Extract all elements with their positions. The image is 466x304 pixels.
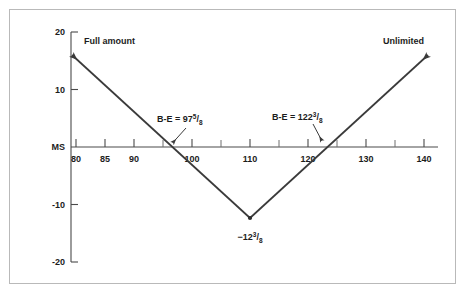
y-tick-label-neg20: -20: [52, 257, 65, 267]
x-axis: [71, 139, 438, 147]
figure-container: 20 10 MS -10 -20 80: [0, 0, 466, 304]
svg-text:B-E = 1223/8: B-E = 1223/8: [272, 111, 323, 124]
chart-plot-frame: 20 10 MS -10 -20 80: [9, 9, 456, 284]
break-even-left-leader: [173, 128, 187, 143]
break-even-right-label: B-E = 1223/8: [272, 111, 323, 124]
y-tick-label-10: 10: [55, 85, 65, 95]
payoff-right-leg: [250, 55, 428, 218]
vertex-prefix: −12: [237, 232, 252, 242]
vertex-value-label: −123/8: [237, 231, 262, 244]
payoff-left-leg: [72, 55, 250, 218]
break-even-right-leader: [313, 124, 322, 141]
y-tick-label-20: 20: [55, 27, 65, 37]
x-tick-label-80: 80: [71, 154, 81, 164]
x-tick-label-130: 130: [358, 154, 373, 164]
payoff-chart: 20 10 MS -10 -20 80: [10, 10, 455, 283]
be-left-prefix: B-E = 97: [157, 114, 193, 124]
be-left-denominator: 8: [199, 119, 203, 126]
annotation-full-amount: Full amount: [84, 36, 135, 46]
x-tick-label-85: 85: [100, 154, 110, 164]
vertex-marker: [248, 216, 252, 220]
payoff-series: [72, 55, 428, 220]
be-right-denominator: 8: [319, 117, 323, 124]
x-tick-label-90: 90: [129, 154, 139, 164]
be-right-prefix: B-E = 122: [272, 112, 313, 122]
break-even-left-label: B-E = 975/8: [157, 113, 203, 126]
figure-caption-strip: [10, 291, 100, 301]
svg-text:B-E = 975/8: B-E = 975/8: [157, 113, 203, 126]
y-tick-label-neg10: -10: [52, 200, 65, 210]
annotation-unlimited: Unlimited: [383, 36, 424, 46]
vertex-denominator: 8: [259, 237, 263, 244]
x-tick-label-140: 140: [416, 154, 431, 164]
x-tick-label-110: 110: [243, 154, 258, 164]
svg-text:−123/8: −123/8: [237, 231, 262, 244]
y-axis-zero-label: MS: [52, 142, 66, 152]
